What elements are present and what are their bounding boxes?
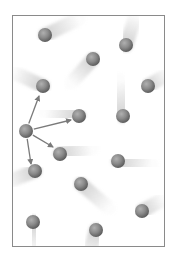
particle-sphere [28, 164, 42, 178]
particle-sphere [135, 204, 149, 218]
particle-sphere [111, 154, 125, 168]
particle-sphere [116, 109, 130, 123]
arrow-up-icon [29, 96, 39, 124]
arrow-down-right-icon [33, 135, 53, 147]
particle-sphere [86, 52, 100, 66]
particle-diagram [0, 0, 172, 260]
particle-sphere [38, 28, 52, 42]
particle-sphere [72, 109, 86, 123]
particle-sphere [74, 177, 88, 191]
particle-sphere [89, 223, 103, 237]
particle-sphere [119, 38, 133, 52]
particles [19, 28, 155, 237]
center-particle-sphere [19, 124, 33, 138]
particle-sphere [36, 79, 50, 93]
particle-sphere [26, 215, 40, 229]
particle-sphere [53, 147, 67, 161]
arrow-right-icon [34, 120, 71, 129]
arrow-down-icon [27, 139, 31, 164]
particle-sphere [141, 79, 155, 93]
